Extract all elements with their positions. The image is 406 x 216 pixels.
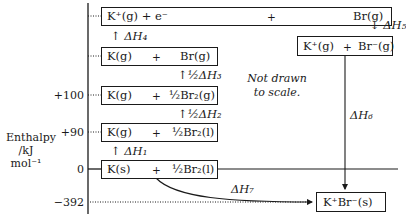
step-dH2: ↑½ΔH₂ bbox=[178, 109, 222, 121]
level-zero-right: ½Br₂(l) bbox=[172, 164, 214, 176]
level-atoms-gas-plus: + bbox=[152, 52, 161, 63]
axis-title: Enthalpy /kJ mol⁻¹ bbox=[6, 131, 46, 170]
level-plus90: K(g) + ½Br₂(l) bbox=[101, 123, 218, 142]
level-zero-plus: + bbox=[152, 165, 161, 176]
arrow-up-icon: ↑ bbox=[111, 29, 121, 43]
arrow-up-icon: ↑ bbox=[178, 68, 188, 82]
step-dH1: ↑ ΔH₁ bbox=[111, 146, 147, 158]
step-dH6: ΔH₆ bbox=[350, 110, 373, 122]
level-product: K⁺Br⁻(s) bbox=[316, 192, 386, 212]
level-product-label: K⁺Br⁻(s) bbox=[323, 197, 373, 209]
level-plus90-left: K(g) bbox=[107, 127, 132, 139]
level-plus100: K(g) + ½Br₂(g) bbox=[101, 86, 218, 105]
arrow-up-icon: ↑ bbox=[111, 144, 121, 158]
step-dH5: ↓ ΔH₅ bbox=[370, 20, 406, 32]
level-plus90-right: ½Br₂(l) bbox=[172, 127, 214, 139]
step-dH4: ↑ ΔH₄ bbox=[111, 31, 147, 43]
tick-zero: 0 bbox=[44, 164, 84, 175]
level-ions-gas-plus: + bbox=[343, 42, 352, 53]
level-zero-left: K(s) bbox=[107, 164, 130, 176]
arrow-down-icon: ↓ bbox=[370, 18, 380, 32]
tick-plus90: +90 bbox=[44, 127, 84, 138]
tick-minus392: −392 bbox=[44, 197, 84, 208]
level-top: K⁺(g) + e⁻ + Br(g) bbox=[101, 7, 392, 26]
level-ions-gas: K⁺(g) + Br⁻(g) bbox=[297, 36, 393, 56]
level-plus90-plus: + bbox=[152, 128, 161, 139]
level-top-plus: + bbox=[267, 12, 276, 23]
step-dH7: ΔH₇ bbox=[231, 184, 254, 196]
arrow-up-icon: ↑ bbox=[178, 107, 188, 121]
level-top-left: K⁺(g) + e⁻ bbox=[107, 11, 168, 23]
step-dH3: ↑½ΔH₃ bbox=[178, 70, 222, 82]
not-to-scale-note: Not drawn to scale. bbox=[247, 72, 307, 100]
axis-title-line1: Enthalpy bbox=[6, 131, 46, 144]
level-plus100-plus: + bbox=[152, 91, 161, 102]
level-plus100-right: ½Br₂(g) bbox=[169, 90, 215, 102]
level-plus100-left: K(g) bbox=[107, 90, 132, 102]
level-atoms-gas-left: K(g) bbox=[107, 51, 132, 63]
level-zero: K(s) + ½Br₂(l) bbox=[101, 160, 218, 179]
axis-title-line2: /kJ mol⁻¹ bbox=[6, 144, 46, 170]
level-atoms-gas-right: Br(g) bbox=[180, 51, 210, 63]
level-atoms-gas: K(g) + Br(g) bbox=[101, 47, 218, 66]
level-ions-gas-right: Br⁻(g) bbox=[358, 41, 394, 53]
level-ions-gas-left: K⁺(g) bbox=[303, 41, 334, 53]
tick-plus100: +100 bbox=[44, 90, 84, 101]
